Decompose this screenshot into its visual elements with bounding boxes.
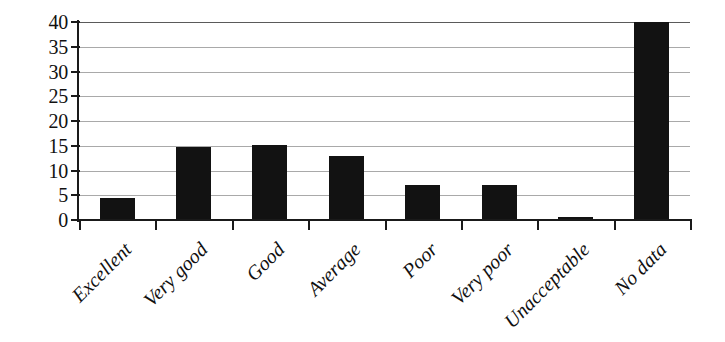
x-tick-mark-2 — [232, 221, 234, 230]
bar-poor[interactable] — [405, 185, 440, 220]
y-tick-mark-5 — [71, 194, 80, 196]
y-tick-label-30: 30 — [34, 62, 68, 82]
y-tick-label-10: 10 — [34, 161, 68, 181]
y-tick-mark-20 — [71, 120, 80, 122]
bar-chart: 40 35 30 25 20 15 10 5 0 Excellent Very … — [0, 0, 725, 342]
bar-very-poor[interactable] — [482, 185, 517, 220]
x-tick-mark-1 — [155, 221, 157, 230]
x-tick-mark-0 — [79, 221, 81, 230]
bar-excellent[interactable] — [100, 198, 135, 220]
y-tick-mark-25 — [71, 95, 80, 97]
bar-very-good[interactable] — [176, 147, 211, 220]
y-tick-label-40: 40 — [34, 12, 68, 32]
bar-no-data[interactable] — [634, 22, 669, 220]
y-tick-label-0: 0 — [34, 210, 68, 230]
x-tick-mark-5 — [461, 221, 463, 230]
y-tick-label-15: 15 — [34, 136, 68, 156]
x-tick-mark-3 — [308, 221, 310, 230]
x-tick-mark-4 — [385, 221, 387, 230]
y-tick-mark-40 — [71, 21, 80, 23]
bar-average[interactable] — [329, 156, 364, 220]
y-tick-mark-15 — [71, 145, 80, 147]
x-tick-mark-8 — [690, 221, 692, 230]
y-tick-label-35: 35 — [34, 37, 68, 57]
y-tick-label-25: 25 — [34, 86, 68, 106]
y-tick-mark-35 — [71, 46, 80, 48]
y-tick-label-20: 20 — [34, 111, 68, 131]
y-tick-label-5: 5 — [34, 185, 68, 205]
bars-layer — [79, 22, 690, 220]
y-tick-mark-30 — [71, 71, 80, 73]
bar-good[interactable] — [252, 145, 287, 220]
y-tick-mark-10 — [71, 170, 80, 172]
x-tick-mark-7 — [614, 221, 616, 230]
x-tick-mark-6 — [537, 221, 539, 230]
